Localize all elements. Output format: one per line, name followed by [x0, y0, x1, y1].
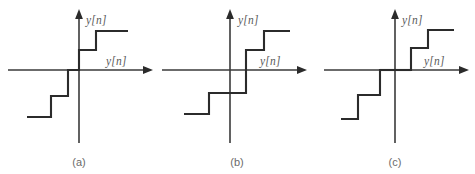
- y-axis-arrow-icon: [75, 9, 83, 19]
- panel-caption: (b): [158, 156, 316, 168]
- figure-root: y[n] y[n] (a) y[n] y[n] (b) y[n] y: [0, 0, 475, 174]
- x-axis-arrow-icon: [143, 66, 153, 74]
- x-axis-arrow-icon: [297, 66, 307, 74]
- panel-c: y[n] y[n] (c): [316, 0, 474, 174]
- panel-c-plot: [316, 0, 474, 150]
- y-axis-label: y[n]: [86, 14, 107, 26]
- y-axis-label: y[n]: [402, 14, 423, 26]
- x-axis-label: y[n]: [424, 55, 445, 67]
- y-axis-arrow-icon: [226, 9, 234, 19]
- quantizer-staircase-curve: [184, 31, 290, 114]
- panel-a: y[n] y[n] (a): [0, 0, 158, 174]
- x-axis-arrow-icon: [459, 66, 469, 74]
- panel-caption: (a): [0, 156, 158, 168]
- panel-a-plot: [0, 0, 158, 150]
- y-axis-label: y[n]: [238, 14, 259, 26]
- x-axis-label: y[n]: [106, 55, 127, 67]
- quantizer-staircase-curve: [27, 31, 128, 117]
- panel-b-plot: [158, 0, 316, 150]
- x-axis-label: y[n]: [260, 55, 281, 67]
- panel-caption: (c): [316, 156, 474, 168]
- y-axis-arrow-icon: [391, 9, 399, 19]
- quantizer-staircase-curve: [341, 30, 454, 119]
- panel-b: y[n] y[n] (b): [158, 0, 316, 174]
